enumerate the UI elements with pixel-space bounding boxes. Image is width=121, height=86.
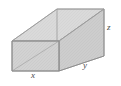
rectangular-box-diagram [0, 0, 121, 86]
axis-label-x: x [31, 71, 35, 80]
axis-label-y: y [83, 61, 87, 70]
axis-label-z: z [107, 23, 111, 32]
figure-container: x y z [0, 0, 121, 86]
